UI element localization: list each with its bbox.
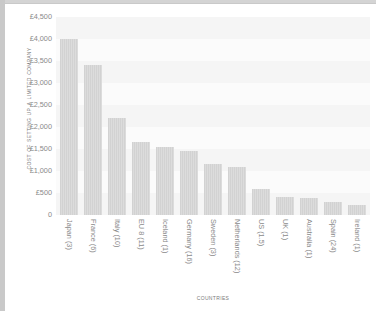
x-label-slot: Netherlands (12): [225, 217, 249, 289]
x-axis-category-label: Iceland (1): [161, 219, 169, 253]
x-label-slot: Ireland (1): [345, 217, 369, 289]
x-axis-category-label: Italy (10): [113, 219, 121, 247]
x-label-slot: Sweden (3): [201, 217, 225, 289]
bar[interactable]: [180, 151, 198, 215]
y-axis-tick-label: £4,000: [8, 35, 52, 43]
x-axis-category-label: Germany (16): [185, 219, 193, 264]
x-axis-category-label: Netherlands (12): [233, 219, 241, 273]
bar-slot: [345, 17, 369, 215]
bar[interactable]: [324, 202, 342, 215]
y-axis-tick-label: £3,000: [8, 79, 52, 87]
bar[interactable]: [60, 39, 78, 215]
x-axis-category-label: EU 8 (11): [137, 219, 145, 250]
bar-slot: [105, 17, 129, 215]
bar-slot: [273, 17, 297, 215]
y-axis-tick-label: £500: [8, 189, 52, 197]
x-axis-category-label: Sweden (3): [209, 219, 217, 256]
bar-slot: [297, 17, 321, 215]
bar-slot: [177, 17, 201, 215]
y-axis-tick-label: £1,000: [8, 167, 52, 175]
bar[interactable]: [132, 142, 150, 215]
bar[interactable]: [300, 198, 318, 215]
x-label-slot: Spain (24): [321, 217, 345, 289]
x-label-slot: Germany (16): [177, 217, 201, 289]
y-axis-tick-label: £2,000: [8, 123, 52, 131]
y-axis-tick-labels: £4,500£4,000£3,500£3,000£2,500£2,000£1,5…: [8, 0, 52, 311]
bar-slot: [225, 17, 249, 215]
y-axis-tick-label: £1,500: [8, 145, 52, 153]
y-axis-tick-label: £3,500: [8, 57, 52, 65]
x-axis-category-label: Australia (1): [305, 219, 313, 258]
bar-series: [56, 17, 370, 215]
x-axis-category-label: France (6): [89, 219, 97, 253]
bar-slot: [201, 17, 225, 215]
x-axis-category-label: US (1.5): [257, 219, 265, 246]
x-axis-category-labels: Japan (3)France (6)Italy (10)EU 8 (11)Ic…: [56, 217, 370, 289]
bar-slot: [153, 17, 177, 215]
bar[interactable]: [276, 197, 294, 215]
bar[interactable]: [84, 65, 102, 215]
x-label-slot: France (6): [81, 217, 105, 289]
bar-slot: [57, 17, 81, 215]
x-axis-category-label: Ireland (1): [353, 219, 361, 252]
x-label-slot: Japan (3): [57, 217, 81, 289]
x-label-slot: EU 8 (11): [129, 217, 153, 289]
bar[interactable]: [108, 118, 126, 215]
bar[interactable]: [348, 205, 366, 215]
y-axis-tick-label: 0: [8, 211, 52, 219]
y-axis-tick-label: £2,500: [8, 101, 52, 109]
x-label-slot: Italy (10): [105, 217, 129, 289]
x-axis-category-label: UK (1): [281, 219, 289, 240]
x-axis-category-label: Spain (24): [329, 219, 337, 253]
bar-slot: [129, 17, 153, 215]
bar[interactable]: [252, 189, 270, 215]
x-label-slot: US (1.5): [249, 217, 273, 289]
bar[interactable]: [156, 147, 174, 215]
bar[interactable]: [228, 167, 246, 215]
bar-slot: [321, 17, 345, 215]
x-axis-title: Countries: [56, 293, 370, 302]
y-axis-tick-label: £4,500: [8, 13, 52, 21]
x-label-slot: Australia (1): [297, 217, 321, 289]
x-axis-category-label: Japan (3): [65, 219, 73, 250]
x-label-slot: Iceland (1): [153, 217, 177, 289]
bar[interactable]: [204, 164, 222, 215]
bar-chart: Cost of Setting up a Limited Company £4,…: [0, 0, 376, 311]
x-label-slot: UK (1): [273, 217, 297, 289]
plot-area: [56, 17, 370, 215]
bar-slot: [81, 17, 105, 215]
bar-slot: [249, 17, 273, 215]
